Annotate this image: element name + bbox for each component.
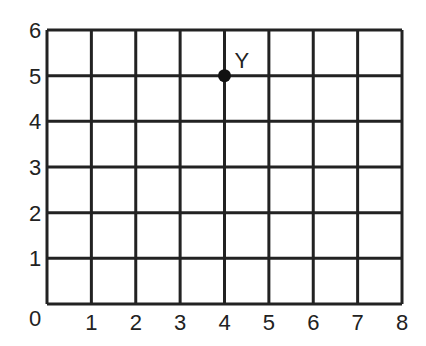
y-tick-label: 4 <box>29 109 41 134</box>
y-tick-label: 6 <box>29 18 41 43</box>
y-tick-label: 2 <box>29 201 41 226</box>
x-tick-label: 6 <box>307 310 319 335</box>
y-tick-label: 5 <box>29 64 41 89</box>
x-tick-label: 3 <box>174 310 186 335</box>
x-tick-label: 2 <box>130 310 142 335</box>
x-tick-label: 7 <box>352 310 364 335</box>
x-tick-label: 0 <box>29 306 41 331</box>
point-marker <box>218 69 231 82</box>
x-tick-label: 8 <box>396 310 408 335</box>
x-tick-label: 5 <box>263 310 275 335</box>
y-tick-label: 3 <box>29 155 41 180</box>
x-tick-label: 1 <box>85 310 97 335</box>
coordinate-grid: 012345678123456Y <box>0 0 426 346</box>
point-label: Y <box>235 48 250 73</box>
x-tick-label: 4 <box>218 310 230 335</box>
y-tick-label: 1 <box>29 246 41 271</box>
